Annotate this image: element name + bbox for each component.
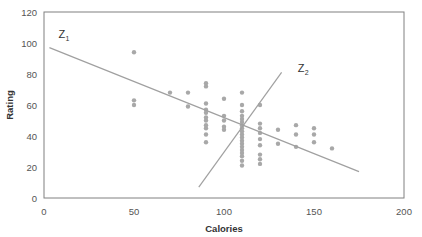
- scatter-point: [132, 103, 136, 107]
- scatter-point: [258, 121, 262, 125]
- scatter-point: [294, 132, 298, 136]
- scatter-point: [222, 97, 226, 101]
- scatter-point: [240, 159, 244, 163]
- x-axis-title: Calories: [205, 223, 243, 234]
- x-tick-label: 0: [41, 206, 46, 217]
- plot-area-border: [44, 12, 404, 198]
- x-tick-label: 50: [129, 206, 140, 217]
- x-tick-label: 100: [216, 206, 232, 217]
- scatter-point: [204, 118, 208, 122]
- scatter-point: [312, 132, 316, 136]
- scatter-point: [240, 90, 244, 94]
- scatter-point: [330, 146, 334, 150]
- x-tick-label: 200: [396, 206, 412, 217]
- y-tick-label: 100: [21, 38, 37, 49]
- line-label-z1: Z: [58, 28, 65, 40]
- scatter-point: [294, 123, 298, 127]
- line-label-subscript-z2: 2: [305, 69, 309, 76]
- scatter-point: [240, 103, 244, 107]
- scatter-point: [258, 137, 262, 141]
- y-tick-label: 80: [26, 69, 37, 80]
- y-axis-title: Rating: [4, 90, 15, 120]
- scatter-chart-figure: 020406080100120050100150200CaloriesRatin…: [0, 0, 422, 237]
- scatter-point: [258, 152, 262, 156]
- y-tick-label: 120: [21, 7, 37, 18]
- y-tick-label: 20: [26, 162, 37, 173]
- scatter-point: [204, 84, 208, 88]
- y-tick-label: 0: [32, 193, 37, 204]
- scatter-point: [240, 163, 244, 167]
- scatter-point: [204, 126, 208, 130]
- scatter-point: [222, 118, 226, 122]
- scatter-point: [276, 142, 280, 146]
- scatter-point: [204, 101, 208, 105]
- scatter-point: [240, 109, 244, 113]
- scatter-point: [204, 132, 208, 136]
- scatter-point: [168, 90, 172, 94]
- scatter-point: [132, 50, 136, 54]
- discriminant-line-z1: [49, 48, 359, 172]
- x-tick-label: 150: [306, 206, 322, 217]
- y-tick-label: 40: [26, 131, 37, 142]
- scatter-point: [240, 154, 244, 158]
- scatter-point: [258, 143, 262, 147]
- discriminant-line-z2: [199, 72, 282, 187]
- line-label-subscript-z1: 1: [65, 35, 69, 42]
- y-tick-label: 60: [26, 100, 37, 111]
- scatter-point: [276, 128, 280, 132]
- scatter-point: [312, 140, 316, 144]
- scatter-point: [258, 126, 262, 130]
- scatter-point: [258, 162, 262, 166]
- scatter-point: [186, 90, 190, 94]
- scatter-point: [312, 126, 316, 130]
- scatter-point: [186, 104, 190, 108]
- scatter-point: [132, 98, 136, 102]
- chart-canvas: 020406080100120050100150200CaloriesRatin…: [0, 0, 422, 237]
- scatter-point: [258, 157, 262, 161]
- scatter-point: [204, 140, 208, 144]
- scatter-point: [222, 128, 226, 132]
- line-label-z2: Z: [298, 62, 305, 74]
